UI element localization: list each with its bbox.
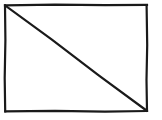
canvas-background [0, 0, 162, 120]
line-drawing-svg [0, 0, 162, 120]
rectangle-bottom-edge [5, 111, 147, 112]
rectangle-top-edge [5, 5, 147, 6]
rectangle-left-edge [5, 5, 6, 111]
figure-canvas: Rectangle with diagonal [0, 0, 162, 120]
rectangle-right-edge [147, 5, 148, 111]
